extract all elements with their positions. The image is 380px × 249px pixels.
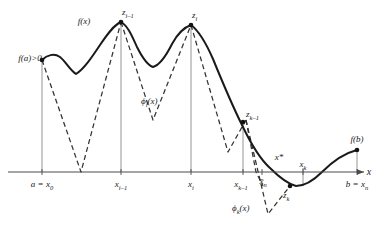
tick-label-x-k: xk [299,159,307,171]
z-i-subscript: i [196,15,198,22]
z-i-label: zi [191,10,198,22]
math-figure-container: x f(x) f(a)>0 f(b) ϕi(x) ϕk(x) zi–1 zi z… [0,0,380,249]
drop-lines-group [42,22,357,186]
z-k-label: zk [282,190,290,202]
dot-f-of-b [355,148,360,153]
f-of-a-label: f(a)>0 [18,53,42,63]
tick-label-b-xn: b = xn [346,179,368,191]
tick-label-a-x0-subscript: 0 [50,184,54,191]
tick-label-xbar-n-subscript: n [263,181,266,188]
x-axis-arrowhead [357,169,364,175]
tick-label-x-k-subscript: k [304,164,307,171]
tick-label-x-k-minus-1: xk–1 [233,179,247,191]
function-curve-f-of-x [42,22,357,186]
marker-dots-group [40,20,360,189]
phi-segment-first [42,22,121,172]
x-axis-label: x [366,166,372,177]
dot-z-i-minus-1 [119,20,124,25]
z-i-minus-1-subscript: i–1 [126,12,134,19]
z-k-minus-1-label: zk–1 [245,109,259,121]
dot-z-k-minus-1 [241,120,246,125]
tick-label-x-i: xi [187,179,194,191]
tick-label-b-xn-subscript: n [365,184,368,191]
z-k-subscript: k [287,195,290,202]
tick-label-xbar-n: x̄n [258,176,266,188]
x-star-label: x* [274,152,284,162]
function-minorant-diagram: x f(x) f(a)>0 f(b) ϕi(x) ϕk(x) zi–1 zi z… [0,0,380,249]
dot-z-i [189,23,194,28]
tick-label-a-x0: a = x0 [31,179,54,191]
tick-label-x-i-subscript: i [192,184,194,191]
x-axis-group [8,169,364,175]
phi-i-label: ϕi(x) [141,96,157,108]
dot-z-k [288,184,293,189]
z-k-minus-1-subscript: k–1 [250,114,259,121]
f-of-b-label: f(b) [351,134,364,144]
tick-label-b-xn-base: b = x [346,179,365,189]
f-of-x-label: f(x) [78,16,91,26]
phi-k-arg: (x) [240,203,250,213]
tick-label-x-i-minus-1: xi–1 [114,179,127,191]
phi-i-arg: (x) [147,96,157,106]
tick-label-a-x0-base: a = x [31,179,50,189]
tick-label-x-k-minus-1-subscript: k–1 [238,184,247,191]
tick-label-x-i-minus-1-subscript: i–1 [119,184,127,191]
z-i-minus-1-label: zi–1 [121,7,134,19]
phi-k-label: ϕk(x) [232,203,250,215]
phi-segment-i-to-k [191,25,246,152]
